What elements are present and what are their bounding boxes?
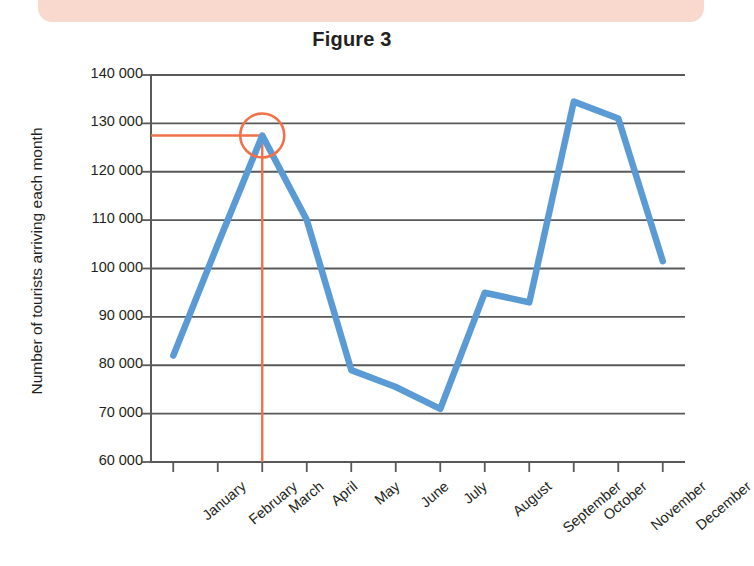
gridlines	[142, 75, 685, 462]
data-series-line	[173, 102, 663, 409]
x-axis-ticks	[173, 462, 663, 472]
